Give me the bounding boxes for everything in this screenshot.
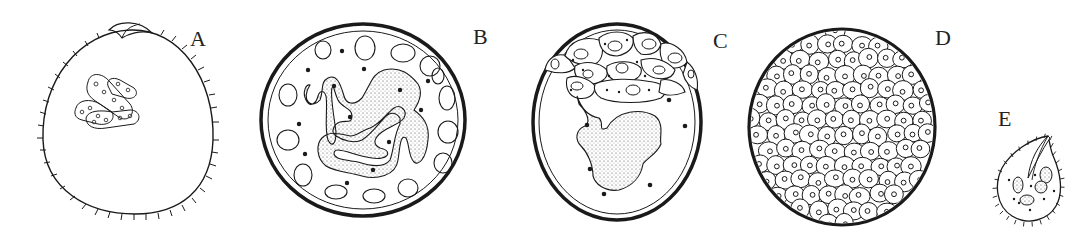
panel-label-b: B — [473, 26, 488, 48]
tomite-drawing — [972, 0, 1078, 246]
cyst-convoluted-nucleus-drawing — [250, 0, 490, 246]
cyst-dividing-cells-drawing — [515, 0, 735, 246]
panel-a: A — [30, 0, 230, 246]
panel-label-c: C — [713, 30, 728, 52]
panel-d: D — [745, 0, 970, 246]
panel-label-d: D — [935, 27, 951, 49]
panel-e: E — [972, 0, 1078, 246]
panel-label-e: E — [998, 108, 1011, 130]
panel-b: B — [250, 0, 490, 246]
panel-c: C — [515, 0, 735, 246]
panel-label-a: A — [190, 28, 206, 50]
